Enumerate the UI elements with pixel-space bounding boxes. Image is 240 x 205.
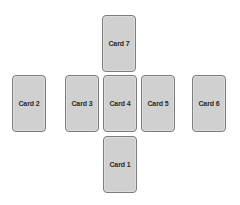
card-6[interactable]: Card 6 xyxy=(192,75,226,132)
card-4[interactable]: Card 4 xyxy=(103,75,137,132)
card-label: Card 2 xyxy=(18,100,39,107)
card-label: Card 5 xyxy=(147,100,168,107)
card-3[interactable]: Card 3 xyxy=(65,75,99,132)
card-5[interactable]: Card 5 xyxy=(141,75,175,132)
card-label: Card 1 xyxy=(109,161,130,168)
card-label: Card 7 xyxy=(108,40,129,47)
card-2[interactable]: Card 2 xyxy=(12,75,46,132)
card-7[interactable]: Card 7 xyxy=(102,15,136,72)
card-label: Card 4 xyxy=(109,100,130,107)
card-1[interactable]: Card 1 xyxy=(103,136,137,193)
card-label: Card 6 xyxy=(198,100,219,107)
card-label: Card 3 xyxy=(71,100,92,107)
